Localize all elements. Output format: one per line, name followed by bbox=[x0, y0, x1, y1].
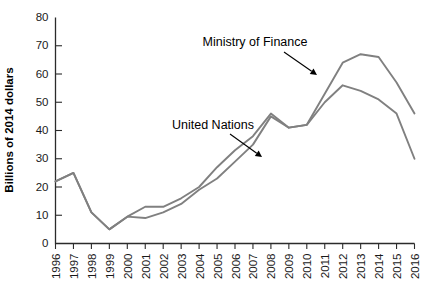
x-tick-label: 2014 bbox=[373, 253, 385, 279]
x-tick-label: 2013 bbox=[355, 254, 367, 280]
x-tick-label: 2002 bbox=[158, 254, 170, 280]
annotations-group: Ministry of FinanceUnited Nations bbox=[172, 35, 317, 157]
x-tick-label: 2007 bbox=[247, 254, 259, 280]
y-tick-label: 20 bbox=[36, 181, 49, 193]
x-tick-label: 2016 bbox=[409, 254, 421, 280]
x-tick-label: 2012 bbox=[337, 254, 349, 280]
x-axis-ticks: 1996199719981999200020012002200320042005… bbox=[50, 244, 421, 280]
annotation-arrow-head bbox=[255, 151, 262, 157]
chart-container: 01020304050607080 1996199719981999200020… bbox=[0, 0, 436, 298]
y-tick-label: 70 bbox=[36, 39, 49, 51]
annotation-arrow-head bbox=[310, 69, 317, 75]
annotation-label-ministry-of-finance: Ministry of Finance bbox=[203, 35, 308, 49]
series-line-ministry-of-finance bbox=[56, 54, 415, 229]
annotation-label-united-nations: United Nations bbox=[172, 118, 254, 132]
line-chart: 01020304050607080 1996199719981999200020… bbox=[0, 0, 436, 298]
x-tick-label: 2003 bbox=[176, 254, 188, 280]
x-tick-label: 1997 bbox=[68, 254, 80, 280]
y-tick-label: 80 bbox=[36, 11, 49, 23]
x-tick-label: 2001 bbox=[140, 254, 152, 280]
y-axis-ticks: 01020304050607080 bbox=[36, 11, 62, 249]
x-tick-label: 2009 bbox=[283, 254, 295, 280]
y-tick-label: 50 bbox=[36, 96, 49, 108]
x-tick-label: 1998 bbox=[86, 254, 98, 280]
y-tick-label: 10 bbox=[36, 209, 49, 221]
x-tick-label: 1999 bbox=[104, 254, 116, 280]
x-tick-label: 2008 bbox=[265, 254, 277, 280]
data-series-group bbox=[56, 54, 415, 229]
x-tick-label: 2000 bbox=[122, 254, 134, 280]
y-axis-label: Billions of 2014 dollars bbox=[3, 67, 15, 192]
x-tick-label: 2010 bbox=[301, 254, 313, 280]
x-tick-label: 1996 bbox=[50, 254, 62, 280]
x-tick-label: 2015 bbox=[391, 254, 403, 280]
x-tick-label: 2006 bbox=[230, 254, 242, 280]
series-line-united-nations bbox=[56, 85, 415, 229]
x-tick-label: 2004 bbox=[194, 253, 206, 279]
y-tick-label: 30 bbox=[36, 152, 49, 164]
y-tick-label: 0 bbox=[42, 237, 48, 249]
x-tick-label: 2005 bbox=[212, 254, 224, 280]
x-tick-label: 2011 bbox=[319, 254, 331, 279]
y-tick-label: 60 bbox=[36, 68, 49, 80]
annotation-arrow-line bbox=[284, 52, 312, 71]
y-tick-label: 40 bbox=[36, 124, 49, 136]
